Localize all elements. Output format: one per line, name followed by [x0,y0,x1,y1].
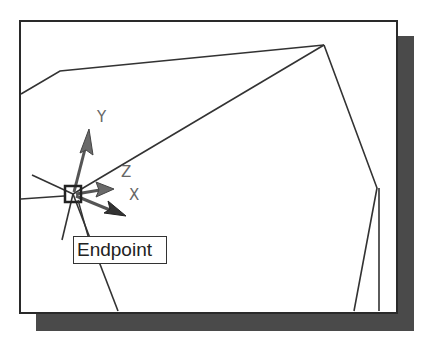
ucs-z-label: Z [121,163,131,181]
ucs-y-label: Y [97,108,106,126]
tooltip-leader [78,200,88,236]
ucs-z-arrow-icon [96,182,114,197]
ucs-x-label: X [129,186,139,204]
edge-left-horizontal [21,196,64,199]
osnap-tooltip: Endpoint [73,236,167,264]
edge-top-left [21,45,324,94]
edge-right [324,45,377,311]
edge-upper-left [32,175,73,194]
wireframe-geometry [21,45,379,311]
ucs-y-arrow-icon [80,129,93,155]
edge-diagonal [73,45,324,194]
drawing-canvas[interactable] [0,0,426,338]
